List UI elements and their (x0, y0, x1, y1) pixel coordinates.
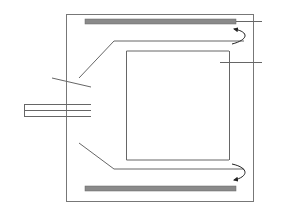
inlet-duct (24, 104, 91, 117)
return-arrow-top (232, 29, 245, 44)
heater-top (85, 19, 236, 24)
return-arrow-bottom (232, 164, 245, 180)
glass-rack (127, 51, 230, 160)
fan-leader (52, 78, 91, 87)
air-baffle (79, 41, 244, 169)
furnace-diagram (0, 0, 307, 212)
heater-bottom (85, 186, 236, 191)
chamber-outline (67, 15, 254, 202)
